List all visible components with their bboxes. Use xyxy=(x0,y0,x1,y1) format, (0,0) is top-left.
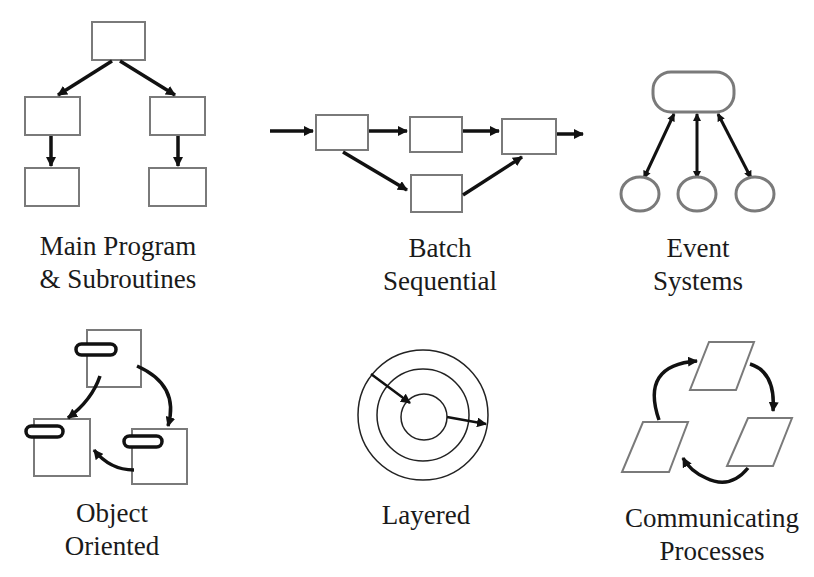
module-box xyxy=(150,97,205,135)
interface-pill xyxy=(76,344,116,355)
layer-arrow xyxy=(447,417,486,424)
message-arrow xyxy=(137,366,171,426)
interface-pill xyxy=(124,436,162,447)
event-arrow xyxy=(718,114,751,178)
component-node xyxy=(736,177,774,211)
communicating-processes-label: Communicating Processes xyxy=(612,502,812,568)
stage-box xyxy=(316,115,368,150)
process-node xyxy=(690,342,754,390)
event-systems-label: Event Systems xyxy=(598,232,798,298)
stage-box xyxy=(410,117,462,152)
layered-diagram xyxy=(358,350,488,480)
layered-label: Layered xyxy=(326,499,526,532)
stage-box xyxy=(502,119,556,154)
module-box xyxy=(92,22,145,60)
main-program-label: Main Program & Subroutines xyxy=(18,230,218,296)
event-arrow xyxy=(644,114,674,178)
call-arrow xyxy=(120,61,175,95)
layer-arrow xyxy=(371,374,410,403)
process-node xyxy=(727,418,792,466)
object-oriented-label: Object Oriented xyxy=(12,497,212,563)
process-node xyxy=(622,422,688,472)
main-program-diagram xyxy=(25,22,206,206)
module-box xyxy=(149,168,206,206)
message-arrow xyxy=(750,364,773,411)
batch-sequential-label: Batch Sequential xyxy=(340,232,540,298)
component-node xyxy=(621,177,659,211)
event-bus xyxy=(653,72,734,112)
middle-layer xyxy=(377,369,469,461)
communicating-processes-diagram xyxy=(622,342,792,482)
flow-arrow xyxy=(463,157,522,195)
component-node xyxy=(678,177,716,211)
batch-sequential-diagram xyxy=(270,115,583,212)
object-oriented-diagram xyxy=(26,330,187,484)
flow-arrow xyxy=(343,152,407,190)
event-systems-diagram xyxy=(621,72,774,211)
object-box xyxy=(87,330,141,387)
stage-box xyxy=(411,175,462,212)
module-box xyxy=(25,168,79,206)
message-arrow xyxy=(94,450,134,470)
interface-pill xyxy=(26,426,63,437)
call-arrow xyxy=(58,61,112,95)
module-box xyxy=(25,97,80,135)
